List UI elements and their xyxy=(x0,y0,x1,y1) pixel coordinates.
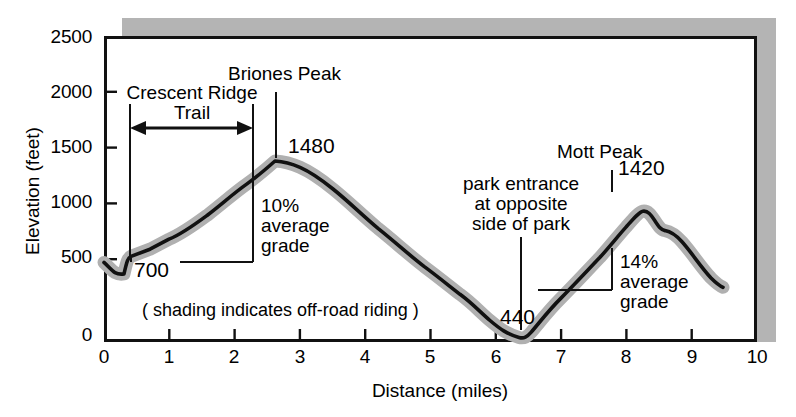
briones-peak-label: Briones Peak xyxy=(228,64,341,84)
grade-10-label-line1: 10% xyxy=(261,196,299,216)
trailhead-value: 700 xyxy=(134,260,169,280)
grade-14-label-line1: 14% xyxy=(620,252,658,272)
briones-peak-value: 1480 xyxy=(288,136,335,156)
x-tick-marks xyxy=(169,329,691,342)
mott-peak-value: 1420 xyxy=(618,158,665,178)
elevation-profile-figure: 2500 2000 1500 1000 500 0 Elevation (fee… xyxy=(0,0,796,417)
grade-14-label-line2: average xyxy=(620,272,689,292)
crescent-ridge-trail-label-line2: Trail xyxy=(116,103,268,123)
park-entrance-label-line2: at opposite xyxy=(446,194,596,214)
chart-graphics xyxy=(0,0,796,417)
shading-caption: ( shading indicates off-road riding ) xyxy=(142,300,419,320)
grade-10-label-line3: grade xyxy=(261,236,310,256)
park-entrance-label-line3: side of park xyxy=(446,214,596,234)
valley-value: 440 xyxy=(500,307,535,327)
crescent-ridge-trail-label-line1: Crescent Ridge xyxy=(116,83,268,103)
park-entrance-label-line1: park entrance xyxy=(446,174,596,194)
grade-14-label-line3: grade xyxy=(620,292,669,312)
grade-10-label-line2: average xyxy=(261,216,330,236)
crescent-ridge-trail-arrow xyxy=(130,104,253,258)
